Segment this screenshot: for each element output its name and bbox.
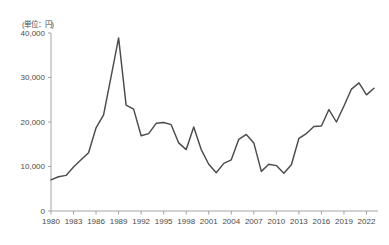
x-tick-label: 1995 <box>155 217 173 226</box>
y-axis: 010,00020,00030,00040,000 <box>21 29 51 216</box>
x-tick-label: 2007 <box>245 217 263 226</box>
y-tick-label: 10,000 <box>21 162 46 171</box>
x-tick-label: 2001 <box>200 217 218 226</box>
x-tick-label: 1983 <box>65 217 83 226</box>
x-tick-label: 1986 <box>87 217 105 226</box>
series-line <box>51 38 374 180</box>
x-tick-label: 1992 <box>132 217 150 226</box>
x-tick-label: 2019 <box>335 217 353 226</box>
x-tick-label: 1989 <box>110 217 128 226</box>
x-tick-label: 1998 <box>177 217 195 226</box>
x-tick-label: 1980 <box>42 217 60 226</box>
line-chart-plot: 010,00020,00030,00040,000 19801983198619… <box>0 0 389 245</box>
x-tick-label: 2010 <box>267 217 285 226</box>
y-tick-label: 0 <box>41 207 46 216</box>
x-tick-label: 2016 <box>313 217 331 226</box>
y-tick-label: 20,000 <box>21 118 46 127</box>
series-layer <box>51 38 374 180</box>
x-axis: 1980198319861989199219951998200120042007… <box>42 211 378 226</box>
x-tick-label: 2004 <box>222 217 240 226</box>
y-tick-label: 40,000 <box>21 29 46 38</box>
chart-container: (単位：円) 010,00020,00030,00040,000 1980198… <box>0 0 389 245</box>
y-tick-label: 30,000 <box>21 73 46 82</box>
x-tick-label: 2022 <box>358 217 376 226</box>
x-tick-label: 2013 <box>290 217 308 226</box>
